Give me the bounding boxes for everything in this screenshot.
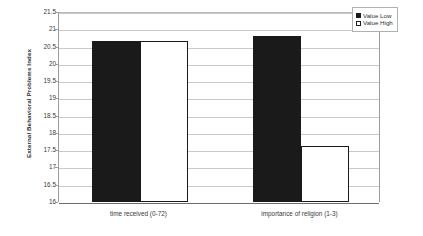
y-axis-tick-label: 17 (10, 164, 56, 170)
legend-item-value-high[interactable]: Value High (356, 20, 393, 26)
y-axis-tick-label: 20.5 (10, 44, 56, 50)
gridline (59, 203, 379, 204)
y-axis-tick-label: 18 (10, 130, 56, 136)
y-axis-tick-label: 19 (10, 95, 56, 101)
plot-area (58, 12, 380, 202)
y-axis-tick-label: 17.5 (10, 147, 56, 153)
legend-label-value-high: Value High (363, 20, 393, 26)
y-axis-tick-label: 21 (10, 26, 56, 32)
y-axis-tick-label: 20 (10, 61, 56, 67)
y-axis-tick-label: 16 (10, 199, 56, 205)
bar-value-low (253, 36, 301, 202)
y-axis-tick-mark (55, 202, 58, 203)
x-axis-category-label: time received (0-72) (58, 210, 219, 217)
legend-item-value-low[interactable]: Value Low (356, 13, 393, 19)
bar-value-low (92, 41, 140, 202)
gridline (59, 30, 379, 31)
bar-value-high (301, 146, 349, 202)
x-axis-category-label: importance of religion (1-3) (219, 210, 380, 217)
y-axis-tick-label: 19.5 (10, 78, 56, 84)
gridline (59, 13, 379, 14)
y-axis-tick-label: 18.5 (10, 113, 56, 119)
legend-swatch-icon-value-high (356, 21, 361, 26)
legend: Value Low Value High (352, 7, 398, 32)
legend-swatch-icon-value-low (356, 13, 361, 18)
bar-value-high (140, 41, 188, 202)
y-axis-tick-label: 21.5 (10, 9, 56, 15)
legend-label-value-low: Value Low (363, 13, 391, 19)
bar-chart: External Behavioral Problems Index 21.52… (0, 0, 423, 236)
y-axis-tick-label: 16.5 (10, 182, 56, 188)
